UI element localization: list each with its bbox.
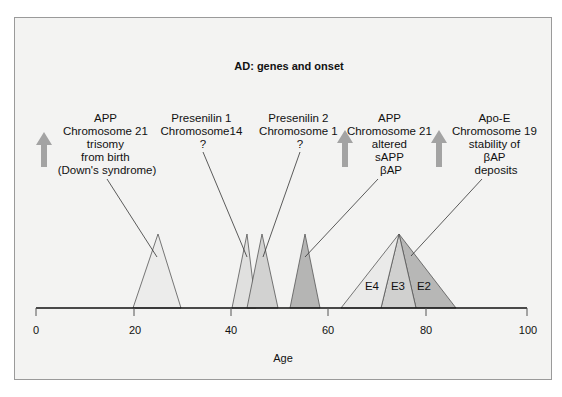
diagram-canvas: AD: genes and onset APP Chromosome 21 tr… — [0, 0, 562, 397]
apoe-label-e4: E4 — [365, 280, 380, 292]
x-axis-label: Age — [273, 352, 293, 364]
onset-triangle-app-altered — [290, 234, 320, 308]
annotation-app-downs: APP Chromosome 21 trisomy from birth (Do… — [58, 112, 157, 176]
diagram-title: AD: genes and onset — [234, 60, 344, 72]
x-tick-label: 80 — [420, 324, 432, 336]
annotation-presenilin-2: Presenilin 2 Chromosome 1 ? — [259, 112, 341, 150]
leader-lines — [107, 152, 482, 257]
onset-triangle-app-downs — [133, 234, 181, 308]
annotation-apo-e: Apo-E Chromosome 19 stability of βAP dep… — [452, 112, 540, 176]
up-arrow-icon — [36, 132, 52, 167]
x-tick-label: 60 — [322, 324, 334, 336]
x-tick-label: 20 — [129, 324, 141, 336]
apoe-label-e3: E3 — [391, 280, 405, 292]
annotation-presenilin-1: Presenilin 1 Chromosome14 ? — [160, 112, 245, 150]
annotation-app-altered: APP Chromosome 21 altered sAPP βAP — [347, 112, 435, 176]
x-axis — [36, 308, 527, 316]
x-tick-label: 100 — [519, 324, 537, 336]
x-tick-label: 40 — [225, 324, 237, 336]
x-tick-label: 0 — [33, 324, 39, 336]
apoe-label-e2: E2 — [417, 280, 431, 292]
